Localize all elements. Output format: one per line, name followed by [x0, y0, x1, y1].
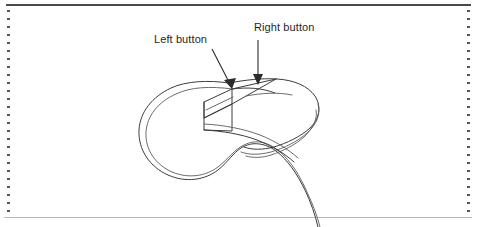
mouse-illustration [0, 0, 477, 227]
figure-page: Left button Right button [0, 0, 477, 227]
mouse-top-crease [246, 93, 292, 96]
right-button-label: Right button [254, 21, 315, 34]
left-button-label: Left button [154, 33, 207, 46]
mouse-button-seam [232, 79, 276, 89]
mouse-cutaway-slice-sweep-inner [204, 124, 298, 158]
mouse-cutaway-slice-sweep [204, 130, 294, 162]
left-button-leader-line [212, 49, 230, 84]
mouse-cutaway-face [204, 89, 232, 118]
mouse-body-outline-inner [146, 87, 320, 227]
mouse-top-shell [229, 79, 319, 150]
mouse-shell-lower-edge [241, 104, 319, 154]
left-button-arrowhead [224, 78, 236, 89]
